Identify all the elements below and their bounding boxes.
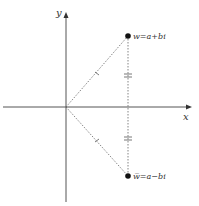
y-axis-arrow-icon (64, 12, 69, 18)
complex-plane-diagram: y x w=a+bi w̅=a−bi (0, 0, 199, 206)
modulus-line-wbar (66, 107, 128, 176)
point-w-conjugate-label: w̅=a−bi (133, 172, 166, 181)
point-w-label: w=a+bi (133, 32, 166, 41)
tick-mark-upper (95, 72, 99, 75)
x-axis-label: x (183, 111, 189, 122)
point-w-conjugate (125, 173, 131, 179)
point-w (125, 33, 131, 39)
y-axis-label: y (55, 7, 62, 18)
x-axis-arrow-icon (186, 105, 192, 110)
modulus-line-w (66, 36, 128, 107)
